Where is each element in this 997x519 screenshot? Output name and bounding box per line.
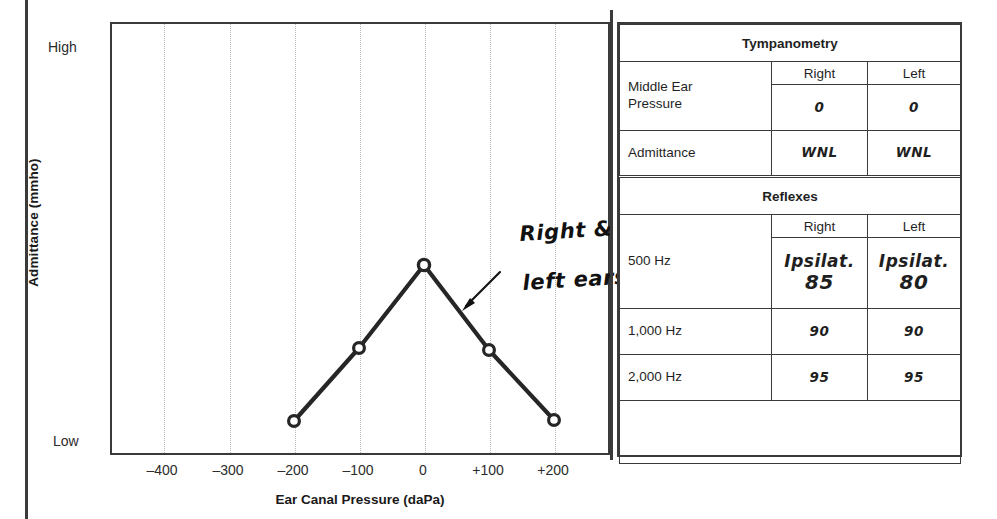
value-reflex-2000hz-left: 95 (868, 355, 961, 401)
value-middle-ear-pressure-left: 0 (868, 85, 961, 131)
value-reflex-500hz-right-mode: Ipsilat. (780, 252, 859, 272)
tympanogram-chart-panel: Admittance (mmho) High Low (0, 0, 612, 519)
results-table: Tympanometry Middle Ear Pressure Right L… (619, 24, 961, 464)
x-axis-title: Ear Canal Pressure (daPa) (110, 492, 610, 507)
results-table-panel: Tympanometry Middle Ear Pressure Right L… (617, 22, 962, 457)
value-admittance-left: WNL (868, 131, 961, 177)
value-reflex-500hz-right: Ipsilat. 85 (772, 238, 868, 309)
table-row-reflex-2000hz: 2,000 Hz 95 95 (620, 355, 961, 401)
row-label-middle-ear-pressure: Middle Ear Pressure (620, 62, 772, 131)
x-axis-tick-pos200: +200 (523, 462, 583, 478)
annotation-line-1: Right & (519, 216, 614, 246)
gridline-neg100 (360, 24, 361, 453)
row-label-line-1: Middle Ear (628, 79, 693, 94)
column-header-right-reflex: Right (772, 215, 868, 238)
panel-divider (610, 10, 613, 460)
value-reflex-1000hz-right: 90 (772, 309, 868, 355)
x-axis-tick-neg400: –400 (132, 462, 192, 478)
row-label-line-2: Pressure (628, 96, 682, 111)
value-reflex-500hz-left: Ipsilat. 80 (868, 238, 961, 309)
value-middle-ear-pressure-right: 0 (772, 85, 868, 131)
tympanogram-report-page: Admittance (mmho) High Low (0, 0, 997, 519)
section-header-reflexes: Reflexes (620, 177, 961, 215)
value-reflex-2000hz-right: 95 (772, 355, 868, 401)
column-header-left-tymp: Left (868, 62, 961, 85)
table-row-reflex-colheads: 500 Hz Right Left (620, 215, 961, 238)
x-axis-tick-zero: 0 (393, 462, 453, 478)
x-axis-tick-pos100: +100 (458, 462, 518, 478)
row-label-500hz: 500 Hz (620, 215, 772, 309)
value-admittance-right: WNL (772, 131, 868, 177)
section-header-tympanometry: Tympanometry (620, 25, 961, 62)
row-label-2000hz: 2,000 Hz (620, 355, 772, 401)
value-reflex-500hz-right-level: 85 (780, 271, 859, 294)
gridline-neg200 (295, 24, 296, 453)
value-reflex-1000hz-left: 90 (868, 309, 961, 355)
column-header-right-tymp: Right (772, 62, 868, 85)
table-row-tymp-colheads: Middle Ear Pressure Right Left (620, 62, 961, 85)
table-row-tympanometry-header: Tympanometry (620, 25, 961, 62)
gridline-zero (425, 24, 426, 453)
table-row-admittance: Admittance WNL WNL (620, 131, 961, 177)
value-reflex-500hz-left-level: 80 (876, 271, 952, 294)
x-axis-tick-neg200: –200 (263, 462, 323, 478)
x-axis-tick-neg100: –100 (328, 462, 388, 478)
column-header-left-reflex: Left (868, 215, 961, 238)
curve-annotation-label: Right & left ears (470, 191, 629, 324)
empty-notes-cell (620, 401, 961, 464)
table-row-empty (620, 401, 961, 464)
gridline-neg400 (164, 24, 165, 453)
row-label-1000hz: 1,000 Hz (620, 309, 772, 355)
row-label-admittance: Admittance (620, 131, 772, 177)
x-axis-tick-neg300: –300 (198, 462, 258, 478)
table-row-reflex-1000hz: 1,000 Hz 90 90 (620, 309, 961, 355)
y-axis-title: Admittance (mmho) (26, 128, 41, 318)
value-reflex-500hz-left-mode: Ipsilat. (876, 252, 952, 272)
table-row-reflexes-header: Reflexes (620, 177, 961, 215)
gridline-neg300 (230, 24, 231, 453)
